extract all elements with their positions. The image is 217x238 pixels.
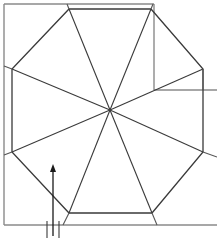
diagram-canvas <box>0 0 217 238</box>
vertex-extensions <box>4 4 217 225</box>
outer-frame <box>4 4 217 225</box>
octagon-diagram <box>0 0 217 238</box>
